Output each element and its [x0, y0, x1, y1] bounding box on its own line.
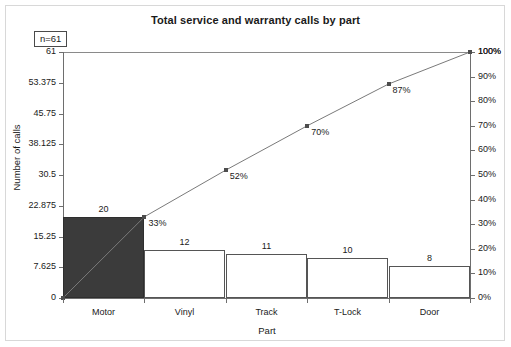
cumulative-percent-label: 100% [478, 46, 501, 56]
cumulative-percent-label: 87% [393, 85, 411, 95]
x-axis-tick [144, 299, 145, 303]
y-axis-right-tick [471, 77, 475, 78]
y-axis-left-tick [59, 175, 63, 176]
bar-value-label: 8 [389, 253, 470, 263]
x-axis-category-label: Vinyl [144, 307, 225, 317]
bar[interactable] [144, 250, 225, 298]
x-axis-tick [226, 299, 227, 303]
cumulative-percent-label: 70% [311, 127, 329, 137]
x-axis-title: Part [63, 325, 471, 336]
y-axis-left-tick [59, 83, 63, 84]
y-axis-right-tick-label: 50% [478, 169, 496, 179]
y-axis-left-tick [59, 144, 63, 145]
y-axis-right-tick [471, 249, 475, 250]
x-axis-tick [63, 299, 64, 303]
y-axis-left-tick [59, 52, 63, 53]
bar[interactable] [389, 266, 470, 298]
x-axis-category-label: T-Lock [307, 307, 388, 317]
y-axis-left-tick-label: 15.25 [0, 231, 56, 241]
x-axis-category-label: Track [226, 307, 307, 317]
y-axis-left-tick [59, 114, 63, 115]
y-axis-left-tick-label: 0 [0, 292, 56, 302]
y-axis-left-tick-label: 61 [0, 46, 56, 56]
sample-size-badge: n=61 [34, 31, 67, 47]
x-axis-category-label: Motor [63, 307, 144, 317]
y-axis-left-tick-label: 45.75 [0, 108, 56, 118]
y-axis-right-tick [471, 224, 475, 225]
y-axis-right-tick [471, 175, 475, 176]
x-axis-tick [470, 299, 471, 303]
y-axis-right-tick [471, 273, 475, 274]
y-axis-right-tick-label: 0% [478, 292, 491, 302]
top-reference-line [63, 52, 471, 53]
bar-value-label: 20 [63, 204, 144, 214]
bar[interactable] [226, 254, 307, 298]
x-axis-tick [307, 299, 308, 303]
bar[interactable] [307, 258, 388, 298]
y-axis-right-tick-label: 70% [478, 120, 496, 130]
bar-value-label: 12 [144, 237, 225, 247]
y-axis-right-tick [471, 200, 475, 201]
cumulative-percent-label: 52% [230, 171, 248, 181]
y-axis-right-tick-label: 30% [478, 218, 496, 228]
y-axis-right-tick-label: 20% [478, 243, 496, 253]
y-axis-title: Number of calls [11, 98, 22, 218]
y-axis-left-tick-label: 30.5 [0, 169, 56, 179]
x-axis-line [63, 298, 471, 299]
y-axis-left-tick-label: 53.375 [0, 77, 56, 87]
y-axis-left-tick-label: 7.625 [0, 261, 56, 271]
y-axis-right-tick-label: 60% [478, 144, 496, 154]
y-axis-right-tick-label: 90% [478, 71, 496, 81]
chart-title: Total service and warranty calls by part [0, 14, 511, 26]
y-axis-right-tick [471, 101, 475, 102]
x-axis-tick [389, 299, 390, 303]
y-axis-right-tick [471, 298, 475, 299]
bar[interactable] [63, 217, 144, 298]
bar-value-label: 11 [226, 241, 307, 251]
cumulative-point-marker[interactable] [224, 168, 228, 172]
y-axis-right-tick [471, 150, 475, 151]
bar-value-label: 10 [307, 245, 388, 255]
y-axis-right-tick-label: 10% [478, 267, 496, 277]
cumulative-percent-label: 33% [148, 218, 166, 228]
x-axis-category-label: Door [389, 307, 470, 317]
y-axis-left-tick-label: 22.875 [0, 200, 56, 210]
cumulative-point-marker[interactable] [468, 50, 472, 54]
y-axis-right-tick-label: 40% [478, 194, 496, 204]
y-axis-right-tick-label: 80% [478, 95, 496, 105]
pareto-chart: Total service and warranty calls by part… [0, 0, 511, 347]
cumulative-point-marker[interactable] [387, 82, 391, 86]
cumulative-point-marker[interactable] [142, 215, 146, 219]
y-axis-right-tick [471, 126, 475, 127]
y-axis-left-tick-label: 38.125 [0, 138, 56, 148]
cumulative-point-marker[interactable] [305, 124, 309, 128]
